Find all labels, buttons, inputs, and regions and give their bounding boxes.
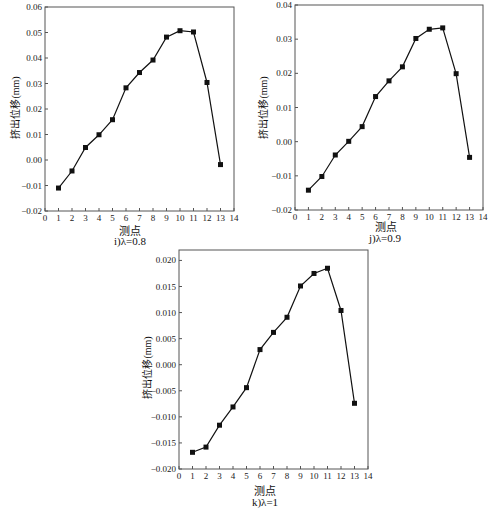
x-tick-label: 10 (310, 471, 320, 481)
x-tick-label: 12 (337, 471, 346, 481)
y-tick-label: −0.015 (151, 438, 177, 448)
data-point-marker (339, 308, 344, 313)
data-point-marker (231, 404, 236, 409)
y-tick-label: −0.020 (151, 464, 177, 474)
chart-panel-k: 01234567891011121314−0.020−0.015−0.010−0… (0, 0, 491, 513)
x-tick-label: 8 (285, 471, 290, 481)
data-point-marker (352, 401, 357, 406)
x-tick-label: 5 (244, 471, 249, 481)
data-point-marker (244, 385, 249, 390)
x-tick-label: 0 (177, 471, 182, 481)
y-tick-label: 0.000 (156, 360, 177, 370)
x-tick-label: 13 (350, 471, 360, 481)
y-tick-label: −0.010 (151, 412, 177, 422)
x-tick-label: 14 (364, 471, 374, 481)
data-point-marker (312, 271, 317, 276)
data-point-marker (217, 423, 222, 428)
x-tick-label: 11 (323, 471, 332, 481)
y-tick-label: 0.005 (156, 334, 177, 344)
series-line (193, 268, 355, 452)
x-tick-label: 9 (298, 471, 303, 481)
caption-k: k)λ=1 (235, 496, 295, 508)
data-point-marker (298, 283, 303, 288)
y-tick-label: 0.020 (156, 255, 177, 265)
line-chart-k: 01234567891011121314−0.020−0.015−0.010−0… (0, 0, 491, 513)
x-tick-label: 4 (231, 471, 236, 481)
y-tick-label: 0.015 (156, 282, 177, 292)
data-point-marker (258, 347, 263, 352)
data-point-marker (190, 450, 195, 455)
x-tick-label: 3 (217, 471, 222, 481)
data-point-marker (325, 266, 330, 271)
x-tick-label: 1 (190, 471, 195, 481)
y-axis-label-k: 挤出位移(mm) (139, 328, 154, 408)
y-tick-label: 0.010 (156, 308, 177, 318)
y-tick-label: −0.005 (151, 386, 177, 396)
data-point-marker (285, 315, 290, 320)
x-tick-label: 6 (258, 471, 263, 481)
x-tick-label: 7 (271, 471, 276, 481)
data-point-marker (271, 330, 276, 335)
data-point-marker (204, 445, 209, 450)
x-tick-label: 2 (204, 471, 209, 481)
plot-frame (179, 250, 368, 469)
